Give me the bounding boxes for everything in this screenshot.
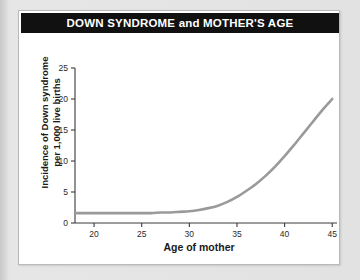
page-title: DOWN SYNDROME and MOTHER'S AGE [67, 17, 294, 29]
x-tick-label: 30 [185, 229, 195, 239]
y-axis-ticks: 0510152025 [59, 63, 75, 228]
x-axis-label: Age of mother [79, 241, 319, 253]
x-tick-label: 40 [280, 229, 290, 239]
y-tick-label: 15 [59, 125, 69, 135]
x-tick-label: 25 [137, 229, 147, 239]
chart-title-bar: DOWN SYNDROME and MOTHER'S AGE [21, 13, 339, 33]
x-axis-ticks: 202530354045 [89, 223, 337, 239]
chart-area: Incidence of Down syndrome per 1,000 liv… [19, 33, 339, 264]
chart-card: DOWN SYNDROME and MOTHER'S AGE Incidence… [18, 10, 340, 265]
x-tick-label: 35 [232, 229, 242, 239]
y-tick-label: 5 [63, 187, 68, 197]
x-tick-label: 20 [89, 229, 99, 239]
y-tick-label: 20 [59, 94, 69, 104]
y-tick-label: 25 [59, 63, 69, 73]
y-tick-label: 0 [63, 218, 68, 228]
incidence-curve [75, 99, 332, 213]
x-tick-label: 45 [328, 229, 338, 239]
y-tick-label: 10 [59, 156, 69, 166]
chart-plot: 0510152025 202530354045 [19, 33, 339, 264]
